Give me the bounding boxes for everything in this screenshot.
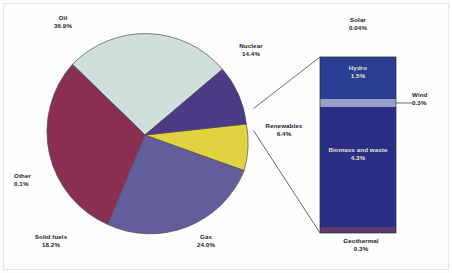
label-oil-pct: 36.9%: [40, 22, 86, 30]
label-other-name: Other: [14, 172, 31, 179]
label-biomass-pct: 4.3%: [321, 154, 395, 162]
label-renewables: Renewables 6.4%: [255, 122, 313, 137]
label-hydro-name: Hydro: [349, 64, 367, 71]
label-gas: Gas 24.0%: [186, 233, 226, 248]
label-nuclear: Nuclear 14.4%: [228, 42, 274, 57]
label-solar-pct: 0.04%: [335, 24, 381, 32]
leader-lines: [254, 57, 321, 233]
label-wind-name: Wind: [412, 91, 427, 98]
label-solar: Solar 0.04%: [335, 16, 381, 31]
chart-figure: Oil 36.9% Nuclear 14.4% Renewables 6.4% …: [0, 0, 452, 273]
label-gas-pct: 24.0%: [186, 241, 226, 249]
label-solar-name: Solar: [350, 16, 366, 23]
label-other-pct: 0.1%: [14, 180, 54, 188]
label-gas-name: Gas: [200, 233, 212, 240]
label-solid-fuels: Solid fuels 18.2%: [26, 233, 76, 248]
label-biomass-name: Biomass and waste: [328, 146, 387, 153]
bar-segment-wind[interactable]: [320, 99, 396, 107]
label-hydro-pct: 1.5%: [335, 72, 381, 80]
bar-segment-biomass-and-waste[interactable]: [320, 107, 396, 227]
label-solid-fuels-name: Solid fuels: [35, 233, 67, 240]
label-oil: Oil 36.9%: [40, 14, 86, 29]
label-geothermal-name: Geothermal: [343, 237, 378, 244]
label-renewables-pct: 6.4%: [255, 130, 313, 138]
label-solid-fuels-pct: 18.2%: [26, 241, 76, 249]
label-wind-pct: 0.3%: [412, 99, 448, 107]
label-other: Other 0.1%: [14, 172, 54, 187]
label-nuclear-pct: 14.4%: [228, 50, 274, 58]
pie-chart: [47, 34, 248, 234]
label-renewables-name: Renewables: [266, 122, 303, 129]
label-geothermal: Geothermal 0.3%: [332, 237, 390, 252]
stacked-bar: [320, 57, 396, 233]
label-nuclear-name: Nuclear: [239, 42, 262, 49]
label-hydro: Hydro 1.5%: [335, 64, 381, 79]
label-wind: Wind 0.3%: [412, 91, 448, 106]
label-geothermal-pct: 0.3%: [332, 245, 390, 253]
label-biomass-and-waste: Biomass and waste 4.3%: [321, 146, 395, 161]
label-oil-name: Oil: [59, 14, 68, 21]
bar-segment-geothermal[interactable]: [320, 227, 396, 233]
